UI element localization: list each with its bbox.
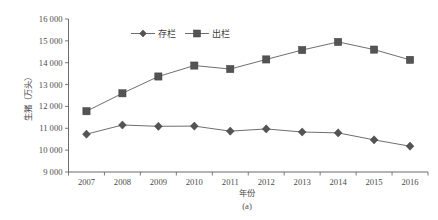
x-tick-label: 2009 bbox=[150, 177, 167, 187]
figure-panel: 9 00010 00011 00012 00013 00014 00015 00… bbox=[0, 0, 438, 220]
y-tick-label: 10 000 bbox=[39, 145, 63, 155]
data-point-marker bbox=[263, 56, 270, 63]
y-tick-label: 15 000 bbox=[39, 36, 63, 46]
data-point-marker bbox=[83, 108, 90, 115]
y-tick-label: 12 000 bbox=[39, 101, 63, 111]
x-tick-label: 2013 bbox=[294, 177, 311, 187]
x-tick-label: 2010 bbox=[186, 177, 203, 187]
data-point-marker bbox=[299, 46, 306, 53]
y-tick-label: 9 000 bbox=[43, 167, 62, 177]
legend-label-cunlan: 存栏 bbox=[158, 28, 176, 39]
y-axis-ticks: 9 00010 00011 00012 00013 00014 00015 00… bbox=[39, 14, 69, 177]
data-point-marker bbox=[119, 90, 126, 97]
data-point-marker bbox=[191, 62, 198, 69]
x-axis-title: 年份 bbox=[239, 188, 256, 198]
data-point-marker bbox=[83, 130, 91, 138]
chart-legend: 存栏 出栏 bbox=[131, 28, 230, 39]
data-point-marker bbox=[335, 38, 342, 45]
data-point-marker bbox=[370, 136, 378, 144]
y-tick-label: 16 000 bbox=[39, 14, 63, 24]
x-axis-ticks: 2007200820092010201120122013201420152016 bbox=[69, 172, 429, 187]
data-point-marker bbox=[226, 127, 234, 135]
data-point-marker bbox=[155, 73, 162, 80]
data-point-marker bbox=[227, 65, 234, 72]
data-point-marker bbox=[262, 125, 270, 133]
y-tick-label: 13 000 bbox=[39, 80, 63, 90]
data-point-marker bbox=[119, 121, 127, 129]
x-tick-label: 2007 bbox=[78, 177, 96, 187]
x-tick-label: 2014 bbox=[330, 177, 348, 187]
series-line bbox=[86, 42, 410, 111]
series-square bbox=[83, 38, 414, 114]
figure-caption: (a) bbox=[242, 201, 252, 211]
series-layer bbox=[83, 38, 414, 150]
data-point-marker bbox=[406, 56, 413, 63]
legend-entry-chulan: 出栏 bbox=[185, 28, 230, 39]
y-tick-label: 11 000 bbox=[39, 123, 62, 133]
y-tick-label: 14 000 bbox=[39, 58, 63, 68]
x-tick-label: 2008 bbox=[114, 177, 131, 187]
pig-inventory-slaughter-line-chart: 9 00010 00011 00012 00013 00014 00015 00… bbox=[0, 0, 438, 220]
legend-marker-square-icon bbox=[194, 30, 201, 37]
data-point-marker bbox=[298, 128, 306, 136]
data-point-marker bbox=[154, 122, 162, 130]
data-point-marker bbox=[370, 46, 377, 53]
series-line bbox=[86, 125, 410, 146]
x-tick-label: 2012 bbox=[258, 177, 275, 187]
x-tick-label: 2015 bbox=[365, 177, 382, 187]
x-tick-label: 2016 bbox=[401, 177, 419, 187]
legend-entry-cunlan: 存栏 bbox=[131, 28, 176, 39]
series-diamond bbox=[83, 121, 414, 150]
y-axis-title: 生猪（万头） bbox=[23, 73, 33, 121]
data-point-marker bbox=[406, 142, 414, 150]
data-point-marker bbox=[190, 122, 198, 130]
legend-marker-diamond-icon bbox=[140, 30, 147, 37]
legend-label-chulan: 出栏 bbox=[212, 28, 230, 39]
data-point-marker bbox=[334, 129, 342, 137]
x-tick-label: 2011 bbox=[222, 177, 239, 187]
